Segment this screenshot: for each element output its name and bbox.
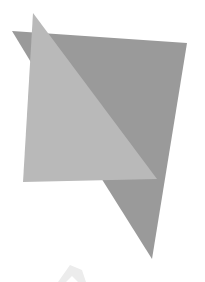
abstract-shapes-canvas <box>0 0 205 282</box>
faint-arrow-shape <box>58 265 86 282</box>
